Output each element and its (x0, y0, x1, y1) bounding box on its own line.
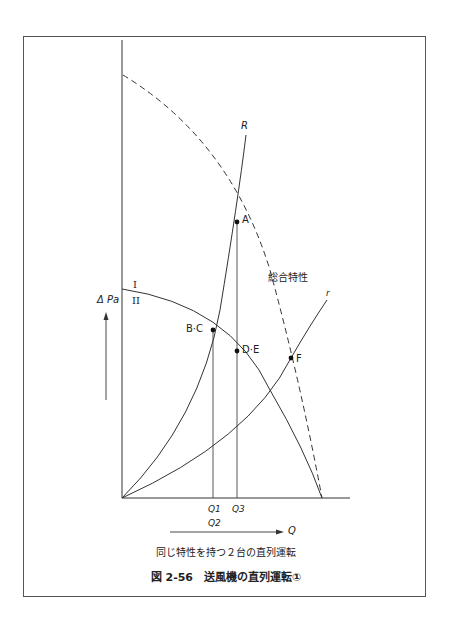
x-axis-label: Q (288, 525, 296, 536)
label-fan-II: II (132, 295, 140, 306)
x-arrow-head (276, 530, 284, 535)
point-A (235, 220, 240, 225)
figure-caption: 同じ特性を持つ２台の直列運転 (0, 544, 452, 559)
label-A: A (242, 214, 249, 225)
tick-Q3: Q3 (232, 504, 245, 514)
resistance-curve-r (122, 300, 327, 498)
fan-curve-single (122, 289, 322, 498)
y-axis-label: Δ Pa (97, 294, 119, 305)
point-DE (235, 349, 240, 354)
resistance-curve-R (122, 135, 246, 498)
series-operation-diagram (0, 0, 452, 631)
label-F: F (296, 353, 302, 364)
figure-title: 図 2-56 送風機の直列運転① (0, 568, 452, 584)
tick-Q2: Q2 (208, 518, 221, 528)
label-R: R (241, 120, 248, 131)
point-F (289, 356, 294, 361)
y-arrow-head (104, 312, 109, 320)
label-fan-I: I (133, 279, 137, 290)
label-DE: D·E (242, 344, 259, 355)
tick-Q1: Q1 (208, 504, 221, 514)
combined-characteristic-curve (123, 75, 322, 498)
label-r: r (326, 288, 330, 298)
point-BC (211, 328, 216, 333)
label-BC: B·C (186, 323, 203, 334)
label-combined: 総合特性 (268, 269, 308, 284)
